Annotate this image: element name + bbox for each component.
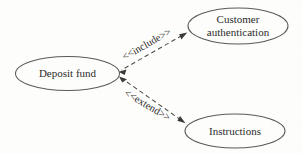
use-case-customer-authentication-label-line2: authentication: [207, 26, 270, 38]
extend-arrowhead-instructions: [177, 116, 185, 123]
extend-arrowhead-deposit: [119, 77, 127, 83]
extend-stereotype-label: <<extend>>: [123, 87, 173, 123]
extend-relationship[interactable]: <<extend>>: [119, 77, 186, 124]
include-stereotype-label: <<include>>: [120, 26, 173, 62]
include-relationship[interactable]: <<include>>: [119, 26, 188, 75]
use-case-deposit-fund[interactable]: Deposit fund: [16, 57, 120, 91]
use-case-instructions-label: Instructions: [209, 125, 261, 137]
use-case-customer-authentication[interactable]: Customer authentication: [188, 8, 288, 44]
use-case-customer-authentication-label-line1: Customer: [217, 13, 260, 25]
use-case-diagram-canvas: <<include>> <<extend>> Deposit fund Cust…: [0, 0, 302, 154]
use-case-instructions[interactable]: Instructions: [185, 114, 285, 148]
use-case-diagram-svg: <<include>> <<extend>> Deposit fund Cust…: [0, 0, 302, 154]
use-case-deposit-fund-label: Deposit fund: [39, 67, 97, 79]
include-arrowhead-customer: [179, 33, 187, 40]
